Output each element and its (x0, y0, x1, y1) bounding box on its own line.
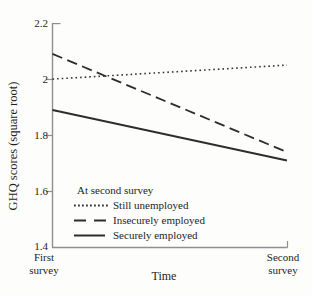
y-tick-label-2-2: 2.2 (20, 17, 48, 30)
y-tick-label-1-8: 1.8 (20, 129, 48, 142)
legend-label-securely-employed: Securely employed (113, 229, 198, 242)
legend-label-insecurely-employed: Insecurely employed (113, 214, 205, 227)
x-tick-label-second-survey: Second survey (255, 251, 311, 277)
y-tick-label-2-0: 2 (20, 73, 48, 86)
x-tick-label-first-survey: First survey (16, 251, 72, 277)
y-axis-title: GHQ scores (square root) (7, 82, 20, 211)
series-lines (53, 54, 288, 161)
ghq-line-chart-figure: GHQ scores (square root) 2.2 2 1.8 1.6 1… (0, 0, 312, 296)
x-axis-title: Time (139, 270, 189, 283)
series-line-still-unemployed (53, 65, 288, 79)
legend-swatches (74, 206, 108, 236)
series-line-securely-employed (53, 110, 288, 161)
y-tick-label-1-6: 1.6 (20, 185, 48, 198)
legend-title: At second survey (77, 184, 153, 197)
legend-label-still-unemployed: Still unemployed (113, 199, 188, 212)
series-line-insecurely-employed (53, 54, 288, 152)
